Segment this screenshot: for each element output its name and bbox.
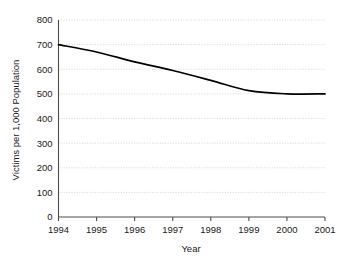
y-tick-label-500: 500 [37, 88, 53, 99]
x-tick-label-1996: 1996 [124, 224, 145, 235]
x-axis-title: Year [181, 243, 200, 254]
chart-canvas: 0100200300400500600700800 19941995199619… [0, 0, 343, 265]
y-axis-tick-labels: 0100200300400500600700800 [37, 14, 53, 222]
y-tick-label-400: 400 [37, 113, 53, 124]
y-tick-label-800: 800 [37, 14, 53, 25]
x-tick-label-2000: 2000 [276, 224, 297, 235]
y-tick-label-0: 0 [47, 211, 52, 222]
x-tick-label-1997: 1997 [162, 224, 183, 235]
y-tick-label-300: 300 [37, 138, 53, 149]
x-tick-label-1994: 1994 [48, 224, 69, 235]
y-tick-label-200: 200 [37, 162, 53, 173]
y-axis-title: Victims per 1,000 Population [10, 60, 21, 181]
y-tick-label-700: 700 [37, 39, 53, 50]
y-tick-label-600: 600 [37, 64, 53, 75]
x-tick-label-1999: 1999 [238, 224, 259, 235]
x-tick-label-2001: 2001 [314, 224, 335, 235]
y-tick-label-100: 100 [37, 187, 53, 198]
x-tick-label-1998: 1998 [200, 224, 221, 235]
line-chart-figure: 0100200300400500600700800 19941995199619… [0, 0, 343, 265]
x-tick-label-1995: 1995 [86, 224, 107, 235]
